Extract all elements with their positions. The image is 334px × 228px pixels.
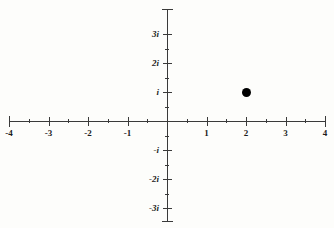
real-tick-major bbox=[207, 117, 208, 126]
imaginary-axis-tick-label: -3i bbox=[149, 204, 159, 213]
plotted-point bbox=[242, 88, 251, 97]
real-tick-minor bbox=[147, 119, 148, 123]
real-axis-tick-label: -3 bbox=[45, 129, 53, 138]
real-tick-major bbox=[246, 117, 247, 126]
real-axis-tick-label: -1 bbox=[124, 129, 132, 138]
real-tick-minor bbox=[305, 119, 306, 123]
real-axis-tick-label: -4 bbox=[5, 129, 13, 138]
imaginary-tick-minor bbox=[165, 107, 169, 108]
real-axis-tick-label: 2 bbox=[244, 129, 249, 138]
real-axis-right-cap bbox=[325, 116, 326, 127]
imaginary-tick-major bbox=[163, 150, 172, 151]
complex-plane-figure: -4-3-2-11234 3i2ii-i-2i-3i bbox=[0, 0, 334, 228]
real-tick-minor bbox=[266, 119, 267, 123]
real-axis-tick-label: 4 bbox=[323, 129, 328, 138]
real-tick-minor bbox=[108, 119, 109, 123]
imaginary-axis-top-cap bbox=[162, 9, 173, 10]
real-axis-tick-label: 3 bbox=[283, 129, 288, 138]
imaginary-axis-tick-label: 3i bbox=[152, 30, 159, 39]
imaginary-tick-minor bbox=[165, 49, 169, 50]
imaginary-tick-major bbox=[163, 92, 172, 93]
imaginary-axis-line bbox=[167, 9, 168, 222]
imaginary-tick-major bbox=[163, 208, 172, 209]
real-tick-minor bbox=[187, 119, 188, 123]
real-tick-major bbox=[128, 117, 129, 126]
real-tick-major bbox=[88, 117, 89, 126]
real-tick-major bbox=[49, 117, 50, 126]
imaginary-tick-major bbox=[163, 179, 172, 180]
real-axis-tick-label: 1 bbox=[204, 129, 209, 138]
real-tick-minor bbox=[29, 119, 30, 123]
real-tick-minor bbox=[68, 119, 69, 123]
real-axis-left-cap bbox=[9, 116, 10, 127]
imaginary-tick-minor bbox=[165, 194, 169, 195]
imaginary-tick-minor bbox=[165, 136, 169, 137]
real-axis-tick-label: -2 bbox=[84, 129, 92, 138]
imaginary-tick-minor bbox=[165, 78, 169, 79]
real-tick-major bbox=[286, 117, 287, 126]
real-tick-minor bbox=[226, 119, 227, 123]
imaginary-tick-minor bbox=[165, 165, 169, 166]
imaginary-axis-tick-label: -i bbox=[154, 146, 160, 155]
imaginary-tick-major bbox=[163, 34, 172, 35]
imaginary-axis-bottom-cap bbox=[162, 221, 173, 222]
imaginary-axis-tick-label: i bbox=[156, 88, 159, 97]
imaginary-axis-tick-label: -2i bbox=[149, 175, 159, 184]
imaginary-axis-tick-label: 2i bbox=[152, 59, 159, 68]
imaginary-tick-major bbox=[163, 63, 172, 64]
